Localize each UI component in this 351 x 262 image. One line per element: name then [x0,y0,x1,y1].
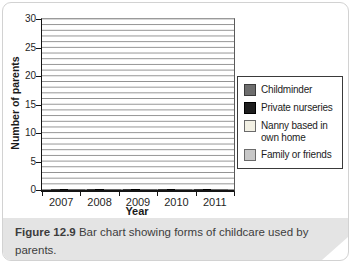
bar-group-2011 [194,189,228,190]
bar-nanny-based-in-own-home-2010 [175,189,184,190]
legend-item-childminder: Childminder [244,84,338,96]
y-tick-mark-20 [36,76,41,77]
bar-family-or-friends-2010 [184,189,193,190]
x-tick-mark-2 [119,192,120,196]
y-tick-label-15: 15 [3,99,36,111]
legend-label-family-or-friends: Family or friends [261,149,332,161]
y-tick-label-25: 25 [3,42,36,54]
bar-private-nurseries-2011 [203,189,212,190]
legend-label-private-nurseries: Private nurseries [261,102,333,114]
x-tick-label-2007: 2007 [49,196,73,208]
legend-swatch-childminder [244,84,256,96]
y-tick-mark-15 [36,105,41,106]
bar-family-or-friends-2007 [77,189,86,190]
bar-nanny-based-in-own-home-2009 [140,189,149,190]
x-tick-mark-5 [234,192,235,196]
bar-private-nurseries-2009 [131,189,140,190]
y-tick-mark-25 [36,48,41,49]
legend-item-family-or-friends: Family or friends [244,149,338,161]
bar-nanny-based-in-own-home-2008 [104,189,113,190]
y-tick-label-10: 10 [3,127,36,139]
x-tick-mark-4 [196,192,197,196]
bar-private-nurseries-2007 [60,189,69,190]
legend-label-childminder: Childminder [261,84,312,96]
bar-family-or-friends-2011 [220,189,229,190]
bar-childminder-2007 [51,189,60,190]
bar-nanny-based-in-own-home-2011 [211,189,220,190]
y-tick-mark-30 [36,19,41,20]
legend-swatch-nanny-based-in-own-home [244,120,256,132]
figure-caption: Figure 12.9 Bar chart showing forms of c… [3,218,348,260]
bar-childminder-2011 [194,189,203,190]
bar-family-or-friends-2009 [148,189,157,190]
x-axis-title: Year [125,205,148,217]
bar-private-nurseries-2008 [95,189,104,190]
bar-group-2010 [158,189,192,190]
y-tick-label-0: 0 [3,184,36,196]
y-tick-mark-10 [36,133,41,134]
plot-area [41,18,235,192]
bar-nanny-based-in-own-home-2007 [68,189,77,190]
bar-childminder-2009 [123,189,132,190]
y-tick-mark-0 [36,190,41,191]
bar-group-2009 [123,189,157,190]
bar-group-2007 [51,189,85,190]
x-tick-mark-3 [157,192,158,196]
bar-group-2008 [87,189,121,190]
chart-card: Number of parents 051015202530 200720082… [2,2,349,261]
legend-item-nanny-based-in-own-home: Nanny based in own home [244,120,338,143]
y-tick-label-30: 30 [3,13,36,25]
x-tick-label-2010: 2010 [164,196,188,208]
bar-family-or-friends-2008 [112,189,121,190]
y-tick-label-20: 20 [3,70,36,82]
x-tick-label-2008: 2008 [87,196,111,208]
x-tick-mark-0 [42,192,43,196]
legend: ChildminderPrivate nurseriesNanny based … [237,76,343,169]
legend-swatch-private-nurseries [244,102,256,114]
x-tick-mark-1 [80,192,81,196]
legend-swatch-family-or-friends [244,149,256,161]
x-tick-label-2011: 2011 [203,196,227,208]
bar-groups [42,19,234,190]
bar-childminder-2008 [87,189,96,190]
legend-item-private-nurseries: Private nurseries [244,102,338,114]
bar-private-nurseries-2010 [167,189,176,190]
y-tick-mark-5 [36,162,41,163]
legend-label-nanny-based-in-own-home: Nanny based in own home [261,120,338,143]
figure-caption-label: Figure 12.9 [15,226,76,238]
bar-childminder-2010 [158,189,167,190]
figure-panel: Number of parents 051015202530 200720082… [0,0,351,262]
y-tick-label-5: 5 [3,156,36,168]
